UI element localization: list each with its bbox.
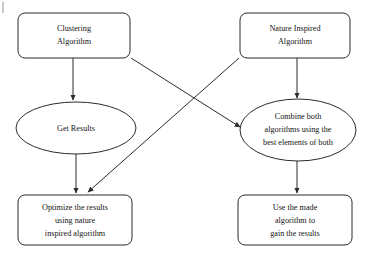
edge-clustering-to-combine [131, 58, 240, 127]
optimize-the-results-label-line-3: inspired algorithm [45, 229, 106, 238]
flowchart-diagram: Clustering Algorithm Nature Inspired Alg… [0, 0, 368, 255]
flowchart-page: Clustering Algorithm Nature Inspired Alg… [0, 0, 368, 255]
node-use-the-made-algorithm[interactable]: Use the made algorithm to gain the resul… [238, 195, 352, 245]
nature-inspired-algorithm-box[interactable] [240, 13, 350, 58]
combine-both-algorithms-label-line-2: algorithms using the [265, 125, 332, 134]
use-the-made-algorithm-label-line-1: Use the made [273, 203, 318, 212]
nature-inspired-algorithm-label-line-2: Algorithm [278, 37, 313, 46]
node-get-results[interactable]: Get Results [16, 102, 136, 154]
nature-inspired-algorithm-label-line-1: Nature Inspired [269, 24, 320, 33]
clustering-algorithm-label-line-1: Clustering [57, 24, 91, 33]
optimize-the-results-label-line-2: using nature [55, 216, 96, 225]
combine-both-algorithms-label-line-3: best elements of both [263, 138, 333, 147]
clustering-algorithm-label-line-2: Algorithm [57, 37, 92, 46]
scan-artifact-mark [2, 2, 4, 13]
node-clustering-algorithm[interactable]: Clustering Algorithm [18, 13, 130, 58]
use-the-made-algorithm-label-line-2: algorithm to [275, 216, 315, 225]
use-the-made-algorithm-label-line-3: gain the results [270, 229, 320, 238]
optimize-the-results-label-line-1: Optimize the results [42, 203, 108, 212]
node-nature-inspired-algorithm[interactable]: Nature Inspired Algorithm [240, 13, 350, 58]
node-optimize-the-results[interactable]: Optimize the results using nature inspir… [18, 195, 132, 245]
clustering-algorithm-box[interactable] [18, 13, 130, 58]
combine-both-algorithms-label-line-1: Combine both [275, 112, 322, 121]
node-combine-both-algorithms[interactable]: Combine both algorithms using the best e… [240, 99, 356, 161]
get-results-label: Get Results [57, 124, 95, 133]
